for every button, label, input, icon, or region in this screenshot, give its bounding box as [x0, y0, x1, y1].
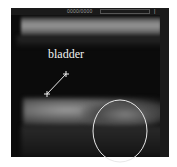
annotation-overlay: [0, 0, 177, 167]
measurement-line: [47, 74, 66, 94]
region-ellipse: [93, 100, 147, 162]
